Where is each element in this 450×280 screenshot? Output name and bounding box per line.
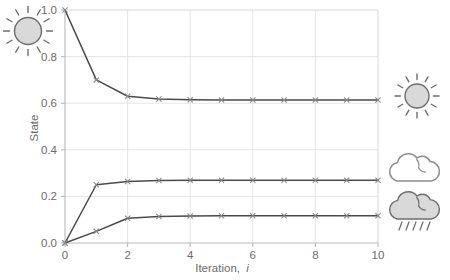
x-tick-label: 2 (124, 249, 130, 261)
series-line-sunny (65, 10, 378, 100)
series-rainy (62, 213, 380, 245)
tick-labels: 02468100.00.20.40.60.81.0 (41, 4, 384, 261)
y-tick-label: 0.4 (41, 144, 58, 156)
series-line-rainy (65, 216, 378, 243)
rain-cloud-icon-right (390, 192, 440, 230)
y-tick-label: 0.2 (41, 190, 57, 202)
tick-marks (61, 10, 378, 247)
x-tick-label: 4 (187, 249, 194, 261)
x-tick-label: 10 (372, 249, 385, 261)
sun-icon-right (395, 74, 439, 118)
y-tick-label: 0.8 (41, 51, 57, 63)
y-tick-label: 0.6 (41, 97, 57, 109)
cloud-icon-right (390, 154, 440, 181)
series-cloudy (62, 178, 380, 246)
data-series-group (62, 7, 380, 245)
x-tick-label: 0 (62, 249, 68, 261)
weather-state-convergence-chart: 02468100.00.20.40.60.81.0 Iteration, i S… (0, 0, 450, 280)
x-tick-label: 6 (250, 249, 256, 261)
series-sunny (62, 7, 380, 102)
x-tick-label: 8 (312, 249, 318, 261)
series-line-cloudy (65, 180, 378, 243)
y-tick-label: 1.0 (41, 4, 57, 16)
x-axis-title: Iteration, i (195, 262, 249, 274)
y-tick-label: 0.0 (41, 237, 57, 249)
gridlines (65, 10, 378, 243)
y-axis-title: State (28, 115, 40, 142)
